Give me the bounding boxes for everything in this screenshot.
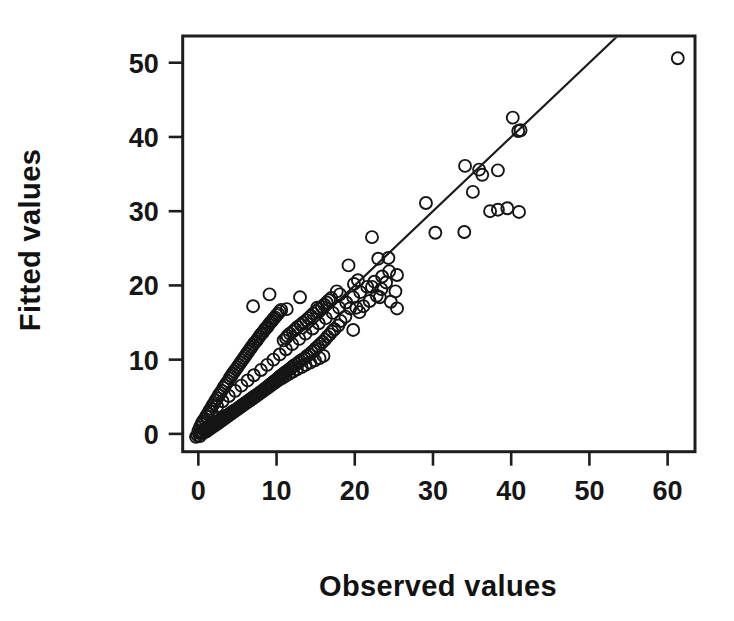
scatter-point [467, 186, 479, 198]
plot-canvas: 0102030405060 01020304050 Observed value… [0, 0, 734, 621]
scatter-point [343, 259, 355, 271]
scatter-point [513, 206, 525, 218]
scatter-point [458, 226, 470, 238]
y-axis-tick-labels: 01020304050 [129, 49, 159, 450]
y-axis-tick-marks [169, 63, 183, 434]
scatter-point [347, 324, 359, 336]
scatter-point [484, 205, 496, 217]
x-tick-label: 40 [496, 476, 526, 506]
x-axis-tick-marks [198, 452, 667, 466]
scatter-plot-figure: 0102030405060 01020304050 Observed value… [0, 0, 734, 621]
y-tick-label: 50 [129, 49, 159, 79]
scatter-point [507, 112, 519, 124]
scatter-point [429, 227, 441, 239]
y-tick-label: 0 [144, 420, 159, 450]
scatter-point [420, 197, 432, 209]
scatter-points-group [190, 52, 684, 443]
scatter-point [294, 291, 306, 303]
x-tick-label: 50 [574, 476, 604, 506]
scatter-point [459, 160, 471, 172]
x-tick-label: 20 [340, 476, 370, 506]
x-axis-tick-labels: 0102030405060 [191, 476, 683, 506]
y-tick-label: 40 [129, 123, 159, 153]
scatter-point [247, 300, 259, 312]
scatter-point [366, 231, 378, 243]
y-axis-title: Fitted values [14, 149, 46, 331]
x-tick-label: 10 [262, 476, 292, 506]
y-tick-label: 30 [129, 197, 159, 227]
scatter-point [672, 52, 684, 64]
x-axis-title: Observed values [319, 570, 557, 602]
x-tick-label: 0 [191, 476, 206, 506]
x-tick-label: 30 [418, 476, 448, 506]
scatter-point [492, 164, 504, 176]
y-tick-label: 20 [129, 271, 159, 301]
y-tick-label: 10 [129, 346, 159, 376]
x-tick-label: 60 [653, 476, 683, 506]
scatter-point [264, 288, 276, 300]
